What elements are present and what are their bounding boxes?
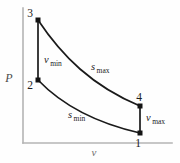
process-label-v-max: vmax <box>146 112 165 126</box>
pv-diagram: P v vmin smax vmax smin 1 2 3 4 <box>0 0 180 163</box>
process-label-s-min: smin <box>68 109 86 123</box>
state-label-1: 1 <box>135 137 141 149</box>
x-axis-label: v <box>92 146 97 158</box>
process-label-v-max-var: v <box>146 112 151 123</box>
process-label-s-max-var: s <box>91 61 95 72</box>
process-label-s-min-var: s <box>68 109 72 120</box>
state-point-4 <box>138 104 143 109</box>
process-label-v-max-sub: max <box>152 117 165 126</box>
process-label-v-min-sub: min <box>50 59 62 68</box>
state-label-4: 4 <box>136 91 142 103</box>
pv-diagram-canvas: P v vmin smax vmax smin 1 2 3 4 <box>0 0 180 163</box>
process-isothermal-compression-2-1 <box>38 80 140 133</box>
state-point-1 <box>138 131 143 136</box>
process-label-s-min-sub: min <box>74 114 86 123</box>
state-point-3 <box>36 18 41 23</box>
process-label-s-max-sub: max <box>97 66 110 75</box>
state-label-2: 2 <box>27 79 33 91</box>
process-label-v-min-var: v <box>44 54 49 65</box>
process-label-v-min: vmin <box>44 54 62 68</box>
state-label-3: 3 <box>27 7 33 19</box>
y-axis-label: P <box>4 71 13 85</box>
process-label-s-max: smax <box>91 61 110 75</box>
state-point-2 <box>36 78 41 83</box>
